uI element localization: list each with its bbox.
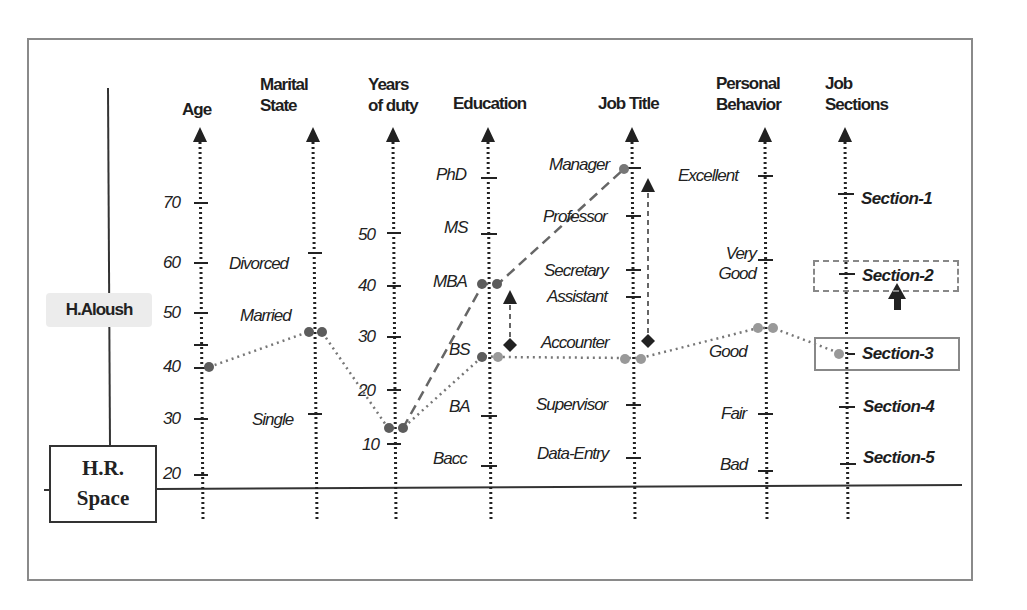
tick-behavior-good: Good <box>709 342 747 362</box>
tick-years-30: 30 <box>358 327 375 347</box>
tick-behavior-very-good: Very Good <box>708 244 756 284</box>
section-5-label: Section-5 <box>863 448 934 468</box>
tick-marital-single: Single <box>252 410 293 430</box>
tick-age-20: 20 <box>163 464 180 484</box>
baseline <box>157 485 962 489</box>
tick-job-accounter: Accounter <box>541 333 609 353</box>
employee-name-badge: H.Aloush <box>46 293 152 327</box>
tick-education-ba: BA <box>449 397 470 417</box>
tick-job-secretary: Secretary <box>544 261 608 281</box>
tick-age-40: 40 <box>163 357 180 377</box>
section-4-label: Section-4 <box>863 397 934 417</box>
tick-job-manager: Manager <box>549 155 609 175</box>
tick-education-ms: MS <box>444 218 468 238</box>
hr-space-label: H.R. Space <box>77 456 130 510</box>
axis-behavior <box>765 142 767 520</box>
tick-job-professor: Professor <box>543 207 607 227</box>
tick-education-mba: MBA <box>433 272 467 292</box>
axis-title-years-of-duty: Years of duty <box>368 74 418 116</box>
axis-title-job-sections: Job Sections <box>825 73 888 115</box>
axis-age <box>200 142 203 520</box>
employee-line <box>108 88 110 445</box>
tick-age-50: 50 <box>163 303 180 323</box>
axis-years <box>393 142 396 520</box>
tick-education-bacc: Bacc <box>433 449 467 469</box>
tick-years-40: 40 <box>358 276 375 296</box>
axis-job-title <box>632 142 635 520</box>
tick-years-10: 10 <box>362 435 379 455</box>
tick-years-20: 20 <box>358 381 375 401</box>
section-3-label: Section-3 <box>862 344 933 364</box>
axis-title-personal-behavior: Personal Behavior <box>716 73 781 115</box>
tick-marital-married: Married <box>240 306 291 326</box>
tick-education-phd: PhD <box>436 165 466 185</box>
tick-age-30: 30 <box>163 409 180 429</box>
tick-behavior-bad: Bad <box>720 455 747 475</box>
tick-marital-divorced: Divorced <box>229 254 288 274</box>
section-2-label: Section-2 <box>862 266 933 286</box>
hr-space-box: H.R. Space <box>49 445 157 523</box>
tick-years-50: 50 <box>358 225 375 245</box>
tick-job-data-entry: Data-Entry <box>537 444 608 464</box>
axis-title-job-title: Job Title <box>598 93 659 114</box>
tick-behavior-fair: Fair <box>721 404 746 424</box>
tick-education-bs: BS <box>449 340 470 360</box>
axis-title-education: Education <box>453 93 526 114</box>
tick-job-supervisor: Supervisor <box>536 395 607 415</box>
axis-title-age: Age <box>182 99 211 120</box>
tick-job-assistant: Assistant <box>547 287 607 307</box>
section-1-label: Section-1 <box>861 189 932 209</box>
axis-education <box>488 142 491 520</box>
axis-title-marital-state: Marital State <box>260 74 308 116</box>
tick-age-70: 70 <box>163 193 180 213</box>
tick-behavior-excellent: Excellent <box>678 166 738 186</box>
tick-age-60: 60 <box>163 253 180 273</box>
